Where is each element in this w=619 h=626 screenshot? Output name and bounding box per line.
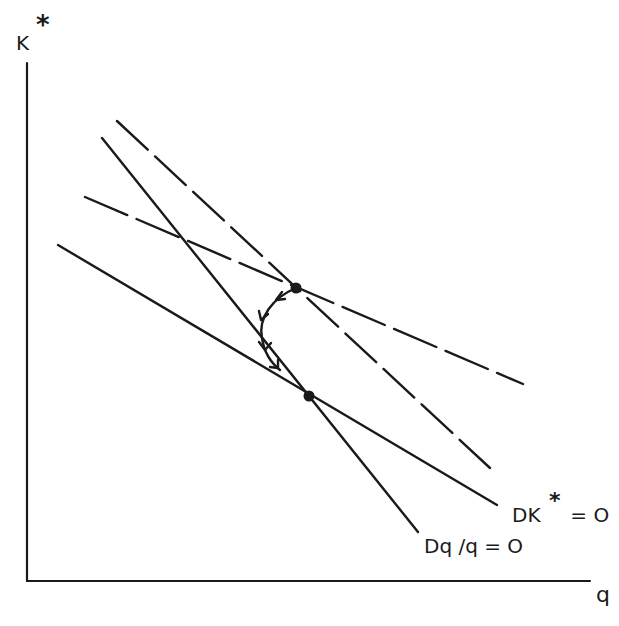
- shifted-flat-locus: [85, 197, 523, 384]
- y-axis-label: K: [16, 31, 30, 55]
- phase-diagram: K * q DK * = O Dq /q = O: [0, 0, 619, 626]
- shifted-steep-locus: [117, 121, 490, 468]
- dq-over-q-zero-locus: [102, 138, 418, 532]
- dk-star-zero-locus: [58, 245, 497, 505]
- dk-star-zero-label-rest: = O: [564, 503, 609, 527]
- dq-over-q-zero-label: Dq /q = O: [424, 534, 523, 558]
- x-axis-label: q: [596, 582, 610, 607]
- dk-star-zero-label-main: DK: [512, 503, 541, 527]
- y-axis-label-superscript: *: [36, 10, 50, 40]
- new-equilibrium-point: [291, 283, 302, 294]
- old-equilibrium-point: [304, 391, 315, 402]
- path-arrow-icon: [259, 342, 271, 350]
- dk-star-zero-label-sup: *: [549, 488, 561, 513]
